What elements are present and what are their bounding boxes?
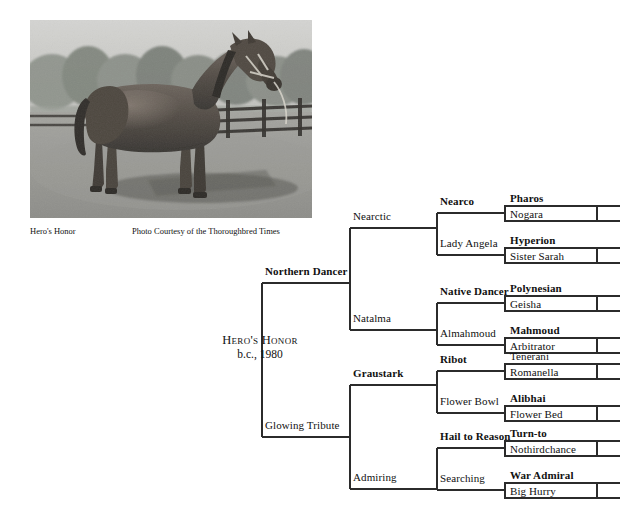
ancestor-nearco[interactable]: Nearco [440, 195, 474, 207]
pedigree-page: Hero's Honor Photo Courtesy of the Thoro… [0, 0, 631, 526]
ancestor-flower-bowl[interactable]: Flower Bowl [440, 395, 499, 407]
ancestor-lady-angela[interactable]: Lady Angela [440, 237, 498, 249]
ancestor-graustark[interactable]: Graustark [353, 367, 403, 379]
ancestor-geisha[interactable]: Geisha [510, 298, 541, 310]
ancestor-mahmoud[interactable]: Mahmoud [510, 324, 560, 336]
subject-block: Hero's Honor b.c., 1980 [186, 333, 334, 361]
ancestor-admiring[interactable]: Admiring [353, 471, 397, 483]
subject-name: Hero's Honor [186, 333, 334, 347]
ancestor-ribot[interactable]: Ribot [440, 353, 467, 365]
ancestor-pharos[interactable]: Pharos [510, 192, 543, 204]
ancestor-almahmoud[interactable]: Almahmoud [440, 327, 496, 339]
ancestor-polynesian[interactable]: Polynesian [510, 282, 562, 294]
ancestor-hail-to-reason[interactable]: Hail to Reason [440, 430, 510, 442]
ancestor-hyperion[interactable]: Hyperion [510, 234, 555, 246]
ancestor-sister-sarah[interactable]: Sister Sarah [510, 250, 564, 262]
ancestor-native-dancer[interactable]: Native Dancer [440, 285, 509, 297]
ancestor-arbitrator[interactable]: Arbitrator [510, 340, 555, 352]
ancestor-big-hurry[interactable]: Big Hurry [510, 485, 556, 497]
subject-description: b.c., 1980 [186, 347, 334, 361]
ancestor-romanella[interactable]: Romanella [510, 366, 559, 378]
ancestor-war-admiral[interactable]: War Admiral [510, 469, 574, 481]
pedigree-chart: Hero's Honor b.c., 1980 Northern Dancer … [0, 0, 631, 526]
ancestor-nothirdchance[interactable]: Nothirdchance [510, 443, 576, 455]
ancestor-northern-dancer[interactable]: Northern Dancer [265, 265, 347, 277]
ancestor-nogara[interactable]: Nogara [510, 208, 543, 220]
ancestor-flower-bed[interactable]: Flower Bed [510, 408, 563, 420]
ancestor-nearctic[interactable]: Nearctic [353, 210, 391, 222]
ancestor-searching[interactable]: Searching [440, 472, 485, 484]
ancestor-natalma[interactable]: Natalma [353, 312, 391, 324]
ancestor-glowing-tribute[interactable]: Glowing Tribute [265, 419, 340, 431]
ancestor-alibhai[interactable]: Alibhai [510, 392, 546, 404]
ancestor-turn-to[interactable]: Turn-to [510, 427, 547, 439]
